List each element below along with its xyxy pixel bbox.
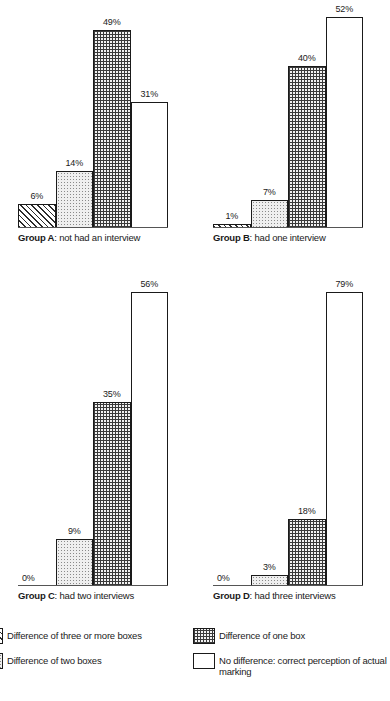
legend-item: Difference of one box	[193, 628, 390, 644]
bar-group-c-cat2: 9%	[56, 286, 94, 586]
panel-caption: Group A: not had an interview	[18, 232, 140, 243]
legend-column-left: Difference of three or more boxes Differ…	[0, 628, 195, 678]
bar-value-label: 40%	[298, 54, 315, 63]
bar-value-label: 3%	[263, 563, 276, 572]
chart-panel-group-c: 0%9%35%56% Group C: had two interviews	[18, 286, 168, 606]
legend-swatch-dense-dot-icon	[193, 628, 215, 644]
bar-value-label: 31%	[141, 90, 158, 99]
bar-value-label: 7%	[263, 188, 276, 197]
chart-legend: Difference of three or more boxes Differ…	[0, 628, 390, 701]
bar-dense-dot	[93, 30, 131, 228]
legend-swatch-light-dot-icon	[0, 653, 3, 669]
bar-group-d-cat4: 79%	[326, 286, 364, 586]
legend-swatch-white-icon	[193, 653, 215, 669]
bar-group-b-cat4: 52%	[326, 14, 364, 228]
bar-hatch	[18, 204, 56, 228]
bar-white	[131, 102, 169, 228]
bar-value-label: 18%	[298, 507, 315, 516]
panel-caption: Group C: had two interviews	[18, 590, 134, 601]
bar-group-d-cat2: 3%	[251, 286, 289, 586]
bar-group-b-cat3: 40%	[288, 14, 326, 228]
bar-group-a-cat3: 49%	[93, 14, 131, 228]
legend-item: Difference of three or more boxes	[0, 628, 195, 644]
legend-label: Difference of two boxes	[7, 653, 102, 666]
bar-group-b-cat1: 1%	[213, 14, 251, 228]
chart-panels: 6%14%49%31% Group A: not had an intervie…	[0, 0, 390, 615]
bar-dense-dot	[93, 402, 131, 586]
bar-value-label: 14%	[66, 159, 83, 168]
panel-baseline	[18, 585, 168, 586]
legend-label: Difference of one box	[219, 628, 305, 641]
bar-light-dot	[56, 171, 94, 228]
panel-baseline	[213, 585, 363, 586]
bar-light-dot	[251, 200, 289, 228]
bar-group-a-cat2: 14%	[56, 14, 94, 228]
bar-white	[326, 292, 364, 586]
bar-group-a-cat4: 31%	[131, 14, 169, 228]
bar-value-label: 49%	[103, 18, 120, 27]
bar-value-label: 1%	[225, 212, 238, 221]
panel-caption: Group B: had one interview	[213, 232, 326, 243]
bar-group-d-cat1: 0%	[213, 286, 251, 586]
panel-baseline	[213, 227, 363, 228]
bar-group-d-cat3: 18%	[288, 286, 326, 586]
bar-group-c-cat4: 56%	[131, 286, 169, 586]
legend-label: Difference of three or more boxes	[7, 628, 142, 641]
panel-caption: Group D: had three interviews	[213, 590, 336, 601]
bar-value-label: 35%	[103, 390, 120, 399]
bar-group-c-cat1: 0%	[18, 286, 56, 586]
panel-baseline	[18, 227, 168, 228]
bar-dense-dot	[288, 519, 326, 586]
chart-panel-group-b: 1%7%40%52% Group B: had one interview	[213, 14, 363, 252]
legend-item: No difference: correct perception of act…	[193, 653, 390, 677]
bar-value-label: 6%	[30, 192, 43, 201]
legend-label: No difference: correct perception of act…	[219, 653, 390, 677]
bar-value-label: 0%	[22, 574, 35, 583]
bar-group-b-cat2: 7%	[251, 14, 289, 228]
bar-group-a-cat1: 6%	[18, 14, 56, 228]
bar-value-label: 79%	[336, 280, 353, 289]
bar-white	[131, 292, 169, 586]
legend-swatch-hatch-icon	[0, 628, 3, 644]
legend-item: Difference of two boxes	[0, 653, 195, 669]
bar-white	[326, 17, 364, 228]
legend-column-right: Difference of one box No difference: cor…	[193, 628, 390, 686]
bar-value-label: 9%	[68, 527, 81, 536]
bar-value-label: 52%	[336, 5, 353, 14]
chart-panel-group-d: 0%3%18%79% Group D: had three interviews	[213, 286, 363, 606]
bar-dense-dot	[288, 66, 326, 228]
bar-group-c-cat3: 35%	[93, 286, 131, 586]
bar-value-label: 56%	[141, 280, 158, 289]
bar-light-dot	[56, 539, 94, 586]
bar-value-label: 0%	[217, 574, 230, 583]
chart-panel-group-a: 6%14%49%31% Group A: not had an intervie…	[18, 14, 168, 252]
